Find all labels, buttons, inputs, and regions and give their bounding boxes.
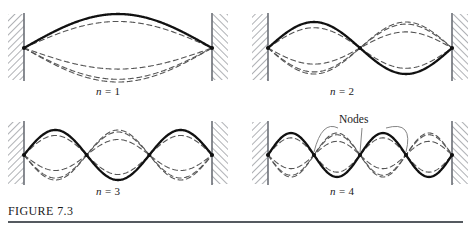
- node-marker: [147, 153, 151, 157]
- nodes-annotation-label: Nodes: [339, 113, 368, 125]
- panel-label-n4-value: = 4: [339, 185, 354, 197]
- node-marker: [266, 46, 270, 50]
- panel-n1: [8, 13, 228, 82]
- wall-right-hatching: [452, 122, 468, 184]
- node-marker: [358, 46, 362, 50]
- wave-dashed-phase: [24, 48, 212, 69]
- node-marker: [450, 46, 454, 50]
- caption-divider: [8, 221, 463, 223]
- wave-dashed-phase: [24, 136, 212, 175]
- wall-right-hatching: [452, 14, 468, 80]
- wall-left-hatching: [8, 122, 24, 184]
- wave-dashed-phase: [24, 130, 212, 180]
- wave-dashed-phase: [24, 21, 212, 48]
- wall-right-hatching: [212, 122, 228, 184]
- panel-label-n3-symbol: n: [96, 185, 102, 197]
- node-marker: [210, 46, 214, 50]
- node-marker: [312, 153, 316, 157]
- panel-label-n4: n = 4: [330, 185, 354, 197]
- panel-n2: [252, 13, 468, 81]
- node-marker: [22, 153, 26, 157]
- node-marker: [22, 46, 26, 50]
- panel-label-n2-value: = 2: [339, 85, 354, 97]
- panel-n3: [8, 121, 228, 185]
- panel-label-n3-value: = 3: [105, 185, 120, 197]
- panel-label-n1-value: = 1: [105, 85, 120, 97]
- node-marker: [358, 153, 362, 157]
- standing-waves-diagram: [0, 0, 469, 229]
- wall-left-hatching: [8, 14, 24, 80]
- wall-right-hatching: [212, 14, 228, 80]
- panel-label-n1: n = 1: [96, 85, 120, 97]
- node-marker: [404, 153, 408, 157]
- node-marker: [210, 153, 214, 157]
- panel-label-n3: n = 3: [96, 185, 120, 197]
- nodes-leader-line: [360, 128, 362, 153]
- figure-caption: FIGURE 7.3: [8, 204, 73, 219]
- wave-solid-envelope: [24, 130, 212, 180]
- panel-label-n1-symbol: n: [96, 85, 102, 97]
- figure-7-3: n = 1 n = 2 n = 3 n = 4 Nodes FIGURE 7.3: [0, 0, 469, 229]
- wave-dashed-phase: [24, 48, 212, 82]
- wave-dashed-phase: [24, 132, 212, 178]
- node-marker: [450, 153, 454, 157]
- wave-solid-envelope: [24, 14, 212, 48]
- node-marker: [266, 153, 270, 157]
- panel-label-n2: n = 2: [330, 85, 354, 97]
- panel-label-n2-symbol: n: [330, 85, 336, 97]
- wall-left-hatching: [252, 122, 268, 184]
- wave-dashed-phase: [24, 140, 212, 171]
- panel-label-n4-symbol: n: [330, 185, 336, 197]
- node-marker: [85, 153, 89, 157]
- wall-left-hatching: [252, 14, 268, 80]
